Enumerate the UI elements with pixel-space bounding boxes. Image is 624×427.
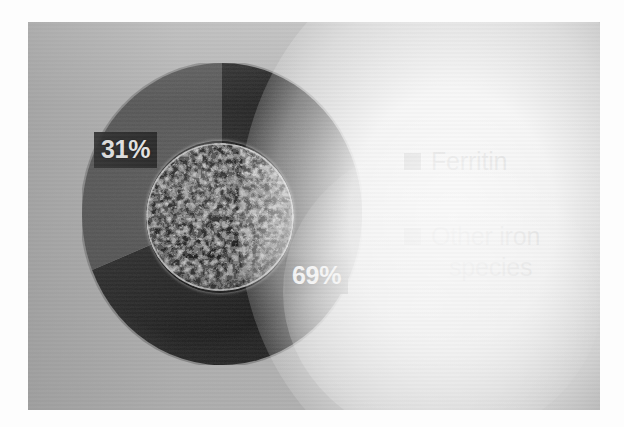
legend-swatch-other-iron-species-icon <box>404 228 421 245</box>
legend-swatch-ferritin-icon <box>404 153 421 170</box>
legend-label-other-iron-species: Other iron species <box>431 221 540 283</box>
legend: Ferritin Other iron species <box>404 146 589 283</box>
legend-label-ferritin: Ferritin <box>431 146 507 177</box>
legend-label-other-iron-species-line1: Other iron <box>431 222 540 250</box>
data-label-other-iron-species: 31% <box>94 132 157 168</box>
figure-root: 31% 69% Ferritin Other iron species <box>0 0 624 427</box>
legend-item-other-iron-species[interactable]: Other iron species <box>404 221 589 283</box>
microscopy-inset-image <box>146 141 294 293</box>
chart-canvas: 31% 69% Ferritin Other iron species <box>28 22 600 410</box>
legend-item-ferritin[interactable]: Ferritin <box>404 146 589 177</box>
legend-label-other-iron-species-line2: species <box>431 252 540 283</box>
microscopy-inset-svg <box>146 141 294 293</box>
data-label-ferritin: 69% <box>285 258 348 294</box>
